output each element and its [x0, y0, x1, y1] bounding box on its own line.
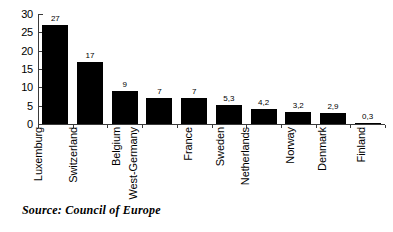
category-label: West-Germany — [123, 54, 134, 127]
bar-value-label: 5,3 — [223, 94, 234, 103]
y-tick-mark — [39, 124, 43, 125]
bar — [146, 98, 172, 124]
x-tick-mark — [385, 125, 386, 128]
category-label-text: Netherlands — [240, 127, 251, 185]
category-label: Norway — [280, 90, 291, 127]
category-label-text: Luxemburg — [34, 127, 45, 181]
bar-value-label: 17 — [86, 51, 95, 60]
y-tick-label: 25 — [21, 27, 33, 38]
bar-value-label: 2,9 — [327, 102, 338, 111]
category-label-text: Switzerland — [68, 127, 79, 183]
category-label-text: France — [183, 127, 194, 161]
category-label: Sweden — [209, 88, 220, 127]
category-label: Netherlands — [234, 69, 245, 127]
bar-value-label: 7 — [157, 87, 161, 96]
source-caption: Source: Council of Europe — [22, 203, 161, 217]
category-label-text: Denmark — [316, 127, 327, 171]
bar-value-label: 4,2 — [258, 98, 269, 107]
bar — [251, 109, 277, 124]
category-label: France — [177, 93, 188, 127]
category-label: Switzerland — [62, 71, 73, 127]
category-label: Luxemburg — [28, 73, 39, 127]
category-label-text: Sweden — [215, 127, 226, 166]
bar-value-label: 7 — [192, 87, 196, 96]
category-label: Finland — [350, 92, 361, 127]
category-label: Belgium — [105, 88, 116, 127]
y-tick-label: 30 — [21, 9, 33, 20]
chart-figure: 051015202530 27179775,34,23,22,90,3 Luxe… — [0, 0, 393, 232]
bar-value-label: 3,2 — [293, 101, 304, 110]
bar — [77, 62, 103, 124]
category-label: Denmark — [311, 83, 322, 127]
bar — [320, 113, 346, 124]
y-tick-mark — [39, 14, 43, 15]
bar-value-label: 27 — [51, 14, 60, 23]
category-label-text: Finland — [355, 127, 366, 162]
category-label-text: Norway — [285, 127, 296, 164]
bar-value-label: 0,3 — [362, 112, 373, 121]
category-axis-labels: LuxemburgSwitzerlandBelgiumWest-GermanyF… — [38, 127, 385, 197]
category-label-text: West-Germany — [129, 127, 140, 200]
category-label-text: Belgium — [111, 127, 122, 166]
y-tick-label: 20 — [21, 45, 33, 56]
